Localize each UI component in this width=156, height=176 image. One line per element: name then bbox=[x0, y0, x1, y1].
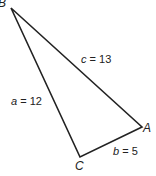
triangle-abc bbox=[11, 8, 142, 157]
side-b-eq: = bbox=[119, 145, 132, 157]
side-c-eq: = bbox=[87, 53, 100, 65]
side-a-value: 12 bbox=[30, 95, 42, 107]
vertex-label-a: A bbox=[142, 121, 151, 135]
side-label-b: b = 5 bbox=[113, 145, 138, 157]
side-label-c: c = 13 bbox=[81, 53, 111, 65]
vertex-label-c: C bbox=[75, 159, 84, 173]
side-c-value: 13 bbox=[99, 53, 111, 65]
triangle-diagram: B A C a = 12 b = 5 c = 13 bbox=[0, 0, 156, 176]
side-label-a: a = 12 bbox=[11, 95, 42, 107]
side-b-value: 5 bbox=[132, 145, 138, 157]
side-a-eq: = bbox=[17, 95, 30, 107]
vertex-label-b: B bbox=[0, 0, 6, 10]
